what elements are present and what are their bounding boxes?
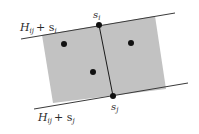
label-bottom-hyperplane: Hij+ sj — [37, 111, 75, 125]
label-s-j: sj — [111, 101, 119, 114]
endpoint-s-i — [96, 22, 102, 28]
data-point — [128, 40, 134, 46]
endpoint-s-j — [110, 93, 116, 99]
label-top-hyperplane: Hij+ si — [19, 21, 57, 35]
data-point — [61, 41, 67, 47]
hyperplane-diagram: Hij+ si si sj Hij+ sj — [0, 0, 199, 134]
data-point — [90, 69, 96, 75]
label-s-i: si — [93, 9, 100, 22]
